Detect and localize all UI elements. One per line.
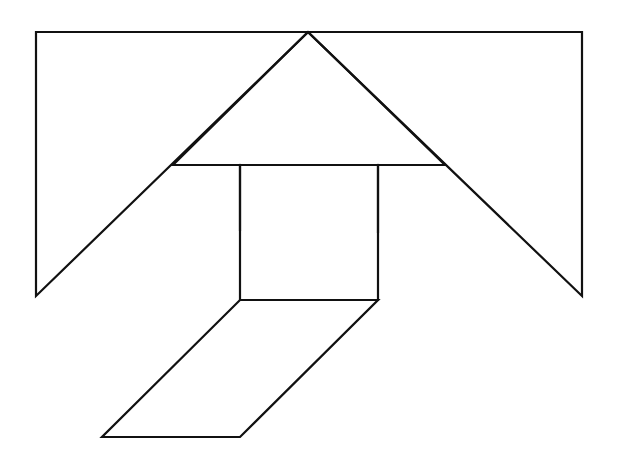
parallelogram <box>102 300 378 437</box>
tangram-diagram <box>0 0 618 458</box>
square <box>240 165 378 300</box>
center-medium-triangle <box>173 32 445 165</box>
diagram-svg <box>0 0 618 458</box>
